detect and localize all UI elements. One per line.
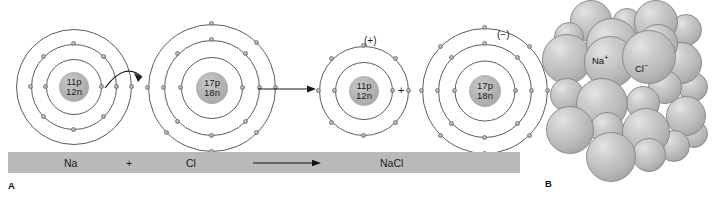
electron bbox=[316, 88, 321, 93]
valence-electron bbox=[482, 25, 487, 30]
electron bbox=[449, 121, 454, 126]
chloride-ion-label: Cl− bbox=[635, 62, 648, 74]
electron bbox=[482, 41, 487, 46]
electron bbox=[329, 120, 334, 125]
electron bbox=[449, 55, 454, 60]
panel-a-letter: A bbox=[8, 180, 15, 191]
electron bbox=[41, 54, 46, 59]
electron bbox=[452, 88, 457, 93]
electron bbox=[243, 119, 248, 124]
chloride-ion-nucleus: 17p 18n bbox=[469, 75, 501, 107]
electron bbox=[390, 88, 395, 93]
electron bbox=[161, 85, 166, 90]
chlorine-nucleus: 17p 18n bbox=[196, 72, 228, 104]
ionic-bonding-figure: 11p 12n bbox=[0, 0, 723, 201]
equation-product-nacl: NaCl bbox=[380, 157, 403, 169]
panel-b-letter: B bbox=[545, 178, 552, 189]
equation-operator-plus: + bbox=[126, 157, 132, 169]
electron bbox=[435, 88, 440, 93]
electron bbox=[513, 88, 518, 93]
sodium-ion-nucleus: 11p 12n bbox=[349, 76, 379, 106]
electron bbox=[406, 88, 411, 93]
sodium-neutron-count: 12n bbox=[66, 87, 82, 97]
valence-electron bbox=[145, 85, 150, 90]
lattice-ion-sphere bbox=[586, 132, 636, 182]
electron bbox=[482, 135, 487, 140]
electron bbox=[393, 56, 398, 61]
electron bbox=[71, 127, 76, 132]
electron bbox=[209, 133, 214, 138]
valence-electron bbox=[438, 44, 443, 49]
valence-electron bbox=[438, 133, 443, 138]
panel-b-nacl-crystal: Na+ Cl− B bbox=[530, 0, 723, 201]
electron bbox=[240, 85, 245, 90]
chloride-ion-neutron-count: 18n bbox=[477, 91, 493, 101]
sodium-ion-label: Na+ bbox=[592, 54, 608, 66]
equation-reactant-na: Na bbox=[64, 157, 77, 169]
reaction-arrow-icon bbox=[258, 82, 320, 96]
electron bbox=[43, 84, 48, 89]
electron bbox=[243, 51, 248, 56]
equation-bar: Na + Cl NaCl bbox=[8, 152, 520, 173]
valence-electron bbox=[254, 130, 259, 135]
equation-reactant-cl: Cl bbox=[186, 157, 196, 169]
sodium-ion-neutron-count: 12n bbox=[356, 91, 372, 101]
valence-electron bbox=[209, 21, 214, 26]
chloride-ion-charge-label: (−) bbox=[497, 29, 510, 40]
electron bbox=[209, 37, 214, 42]
sodium-ion-charge-label: (+) bbox=[364, 35, 377, 46]
valence-electron bbox=[419, 88, 424, 93]
electron bbox=[393, 120, 398, 125]
electron bbox=[178, 85, 183, 90]
chloride-ion-sphere bbox=[622, 30, 676, 84]
electron bbox=[332, 88, 337, 93]
sodium-nucleus: 11p 12n bbox=[59, 72, 89, 102]
product-join-plus-sign: + bbox=[398, 84, 404, 96]
electron bbox=[28, 84, 33, 89]
electron bbox=[71, 41, 76, 46]
electron bbox=[361, 133, 366, 138]
chlorine-neutron-count: 18n bbox=[204, 88, 220, 98]
electron bbox=[515, 55, 520, 60]
panel-a-ionic-bond-formation: 11p 12n bbox=[0, 0, 530, 201]
sodium-ion-diagram: 11p 12n bbox=[318, 45, 410, 137]
electron bbox=[175, 119, 180, 124]
equation-yields-arrow-icon bbox=[253, 159, 325, 167]
lattice-ion-sphere bbox=[632, 138, 666, 172]
